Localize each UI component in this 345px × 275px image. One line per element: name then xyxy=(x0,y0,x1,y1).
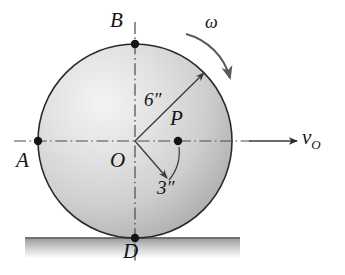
label-point-a: A xyxy=(16,150,29,171)
label-radius-3in: 3″ xyxy=(157,178,174,197)
velocity-symbol: v xyxy=(302,125,311,149)
label-point-b: B xyxy=(110,10,123,31)
label-velocity: vO xyxy=(302,127,321,151)
velocity-subscript: O xyxy=(311,137,320,152)
point-marker-a xyxy=(34,137,42,145)
point-marker-p xyxy=(174,137,182,145)
rolling-disk-figure: B A O P D 6″ 3″ ω vO xyxy=(0,0,345,275)
label-radius-6in: 6″ xyxy=(144,90,161,109)
label-point-p: P xyxy=(170,108,183,129)
figure-canvas xyxy=(0,0,345,275)
label-point-o: O xyxy=(110,150,125,171)
point-marker-b xyxy=(131,40,139,48)
label-point-d: D xyxy=(123,241,138,262)
label-angular-velocity: ω xyxy=(205,13,218,31)
